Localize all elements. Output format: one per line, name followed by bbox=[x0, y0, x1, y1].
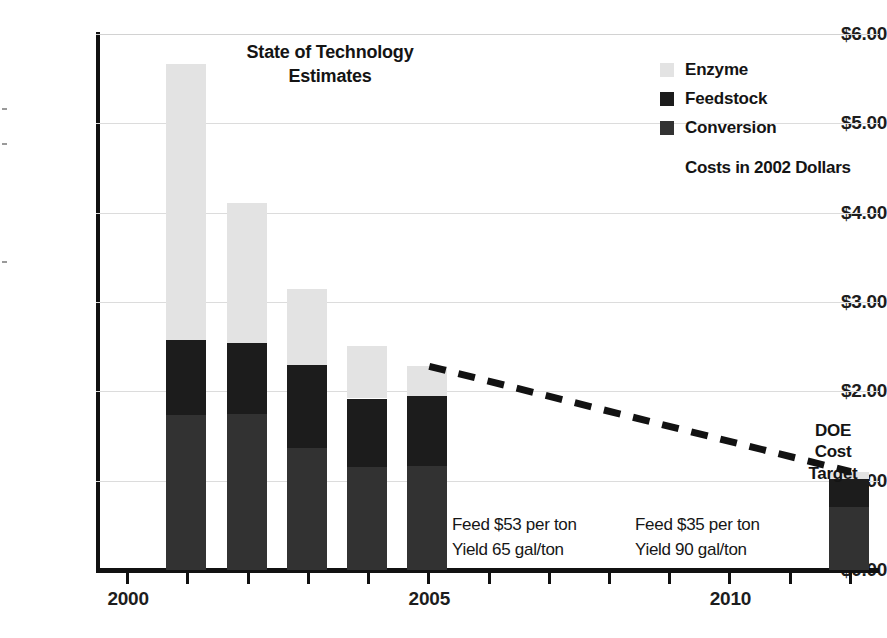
bar-2002 bbox=[227, 34, 267, 570]
bar-segment-conversion bbox=[407, 466, 447, 570]
x-axis-tick bbox=[186, 573, 189, 584]
x-axis-tick bbox=[849, 573, 852, 584]
annotation-feed-left-line1: Feed $53 per ton bbox=[452, 513, 577, 538]
x-axis-tick-label: 2000 bbox=[107, 588, 148, 610]
legend-item-feedstock: Feedstock bbox=[660, 89, 885, 109]
chart-title-line2: Estimates bbox=[205, 64, 455, 88]
bar-segment-conversion bbox=[166, 415, 206, 570]
bar-segment-conversion bbox=[287, 448, 327, 570]
x-axis-tick bbox=[728, 573, 731, 584]
legend-label-conversion: Conversion bbox=[685, 118, 777, 138]
annotation-doe-line2: Cost bbox=[795, 441, 871, 462]
scan-artifact-mark bbox=[2, 108, 7, 110]
x-axis-tick bbox=[427, 573, 430, 584]
bar-segment-enzyme bbox=[347, 346, 387, 399]
scan-artifact-mark bbox=[2, 261, 7, 263]
x-axis-tick bbox=[307, 573, 310, 584]
x-axis-tick bbox=[548, 573, 551, 584]
x-axis-tick bbox=[668, 573, 671, 584]
gridline bbox=[96, 302, 879, 303]
scan-artifact-mark bbox=[2, 143, 7, 145]
gridline bbox=[96, 481, 879, 482]
chart-title-line1: State of Technology bbox=[205, 40, 455, 64]
annotation-feed-left-line2: Yield 65 gal/ton bbox=[452, 538, 577, 563]
legend-label-enzyme: Enzyme bbox=[685, 60, 748, 80]
bar-segment-feedstock bbox=[407, 396, 447, 467]
gridline bbox=[96, 391, 879, 392]
chart-title: State of Technology Estimates bbox=[205, 40, 455, 89]
bar-segment-enzyme bbox=[407, 366, 447, 395]
x-axis-tick bbox=[789, 573, 792, 584]
x-axis-tick bbox=[126, 573, 129, 584]
bar-segment-conversion bbox=[227, 414, 267, 570]
bar-segment-feedstock bbox=[166, 340, 206, 414]
legend-note-currency: Costs in 2002 Dollars bbox=[685, 158, 885, 178]
bar-segment-conversion bbox=[347, 467, 387, 570]
legend-swatch-conversion bbox=[660, 121, 674, 135]
x-axis-tick-label: 2010 bbox=[710, 588, 751, 610]
x-axis-tick-label: 2005 bbox=[409, 588, 450, 610]
chart-figure: $0.00$1.00$2.00$3.00$4.00$5.00$6.00 2000… bbox=[0, 0, 887, 638]
gridline bbox=[96, 34, 879, 35]
bar-segment-feedstock bbox=[287, 365, 327, 447]
annotation-feed-right-line2: Yield 90 gal/ton bbox=[635, 538, 760, 563]
bar-segment-enzyme bbox=[227, 203, 267, 343]
annotation-doe-line3: Target bbox=[795, 463, 871, 484]
bar-segment-enzyme bbox=[166, 64, 206, 341]
x-axis-tick bbox=[488, 573, 491, 584]
bar-2004 bbox=[347, 34, 387, 570]
bar-segment-feedstock bbox=[227, 343, 267, 414]
annotation-feed-left: Feed $53 per ton Yield 65 gal/ton bbox=[452, 513, 577, 562]
annotation-feed-right-line1: Feed $35 per ton bbox=[635, 513, 760, 538]
legend-swatch-enzyme bbox=[660, 63, 674, 77]
legend-item-conversion: Conversion bbox=[660, 118, 885, 138]
bar-2001 bbox=[166, 34, 206, 570]
bar-segment-conversion bbox=[829, 507, 869, 570]
bar-segment-enzyme bbox=[287, 289, 327, 366]
legend-item-enzyme: Enzyme bbox=[660, 60, 885, 80]
bar-2005 bbox=[407, 34, 447, 570]
x-axis-tick bbox=[367, 573, 370, 584]
legend-label-feedstock: Feedstock bbox=[685, 89, 767, 109]
bar-segment-feedstock bbox=[347, 399, 387, 468]
chart-legend: Enzyme Feedstock Conversion Costs in 200… bbox=[660, 60, 885, 178]
annotation-doe-line1: DOE bbox=[795, 420, 871, 441]
annotation-doe-cost-target: DOE Cost Target bbox=[795, 420, 871, 484]
annotation-feed-right: Feed $35 per ton Yield 90 gal/ton bbox=[635, 513, 760, 562]
gridline bbox=[96, 213, 879, 214]
x-axis-tick bbox=[608, 573, 611, 584]
x-axis-tick bbox=[247, 573, 250, 584]
bar-2003 bbox=[287, 34, 327, 570]
legend-swatch-feedstock bbox=[660, 92, 674, 106]
